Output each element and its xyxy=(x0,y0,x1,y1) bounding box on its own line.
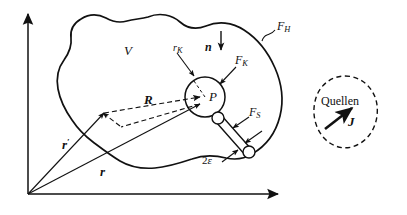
vector-r-prime xyxy=(28,113,104,194)
label-tube-width-2epsilon: 2ε xyxy=(202,155,212,166)
label-sources-quellen: Quellen xyxy=(321,95,359,107)
label-tube-surface-FS: FS xyxy=(249,106,261,120)
tube-mouth-upper xyxy=(212,112,224,124)
label-vector-r: r xyxy=(100,165,105,178)
label-point-P: P xyxy=(209,90,217,103)
label-sphere-surface-FK: FK xyxy=(235,54,248,68)
label-volume-V: V xyxy=(124,44,132,57)
label-sphere-radius-rK: rK xyxy=(173,41,183,55)
label-current-density-J: J xyxy=(348,115,355,128)
figure-canvas: V FH rK n FK P R FS 2ε r′ r Quellen xyxy=(0,0,407,215)
leader-f-h xyxy=(262,30,275,41)
label-vector-R: R xyxy=(144,93,153,106)
label-vector-r-prime: r′ xyxy=(62,138,70,151)
label-outer-surface-FH: FH xyxy=(277,20,290,34)
tube-mouth-lower xyxy=(243,146,255,158)
label-normal-vector-n: n xyxy=(205,41,212,53)
